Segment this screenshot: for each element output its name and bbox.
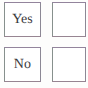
yes-no-checkbox-grid: Yes No bbox=[0, 0, 88, 88]
yes-checkbox-mark bbox=[53, 3, 85, 36]
yes-checkbox[interactable] bbox=[52, 2, 86, 37]
no-checkbox-mark bbox=[53, 48, 85, 81]
yes-label-box: Yes bbox=[4, 2, 41, 37]
yes-label: Yes bbox=[5, 3, 40, 36]
no-label: No bbox=[5, 48, 40, 81]
no-checkbox[interactable] bbox=[52, 47, 86, 82]
no-label-box: No bbox=[4, 47, 41, 82]
